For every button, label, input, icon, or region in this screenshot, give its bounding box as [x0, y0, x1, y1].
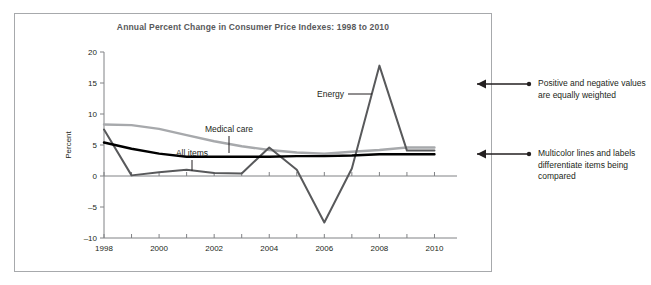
y-tick-label: 20 — [88, 48, 97, 57]
x-tick-label: 2000 — [150, 244, 168, 253]
axes-layer: –10–505101520199820002002200420062008201… — [64, 48, 457, 253]
y-tick-label: 10 — [88, 110, 97, 119]
x-tick-label: 2004 — [260, 244, 278, 253]
annotation-positive-negative: Positive and negative values are equally… — [538, 78, 651, 101]
x-tick-label: 2002 — [205, 244, 223, 253]
y-tick-label: 5 — [93, 141, 98, 150]
y-tick-label: –5 — [88, 203, 97, 212]
series-labels-layer: Medical careAll itemsEnergy — [176, 89, 372, 171]
series-line-medical-care — [104, 125, 434, 154]
series-label-medical-care: Medical care — [205, 124, 253, 134]
series-label-all-items: All items — [176, 148, 208, 158]
x-tick-label: 2008 — [370, 244, 388, 253]
y-axis-label: Percent — [64, 130, 73, 158]
line-chart: –10–505101520199820002002200420062008201… — [14, 13, 492, 272]
x-tick-label: 2010 — [426, 244, 444, 253]
series-layer — [104, 66, 434, 223]
series-label-energy: Energy — [317, 89, 345, 99]
x-tick-label: 2006 — [315, 244, 333, 253]
y-tick-label: 0 — [93, 172, 98, 181]
y-tick-label: 15 — [88, 79, 97, 88]
x-tick-label: 1998 — [95, 244, 113, 253]
series-line-energy — [104, 66, 434, 223]
y-tick-label: –10 — [84, 234, 98, 243]
annotation-multicolor: Multicolor lines and labels differentiat… — [538, 148, 651, 183]
